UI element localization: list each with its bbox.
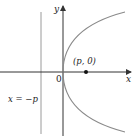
y-axis-label: y bbox=[53, 4, 60, 14]
parabola-diagram: y x 0 (p, 0) x = −p bbox=[0, 0, 134, 140]
origin-label: 0 bbox=[56, 74, 62, 84]
x-axis-label: x bbox=[126, 74, 131, 84]
directrix-label: x = −p bbox=[8, 94, 38, 104]
focus-point bbox=[84, 70, 88, 74]
focus-label: (p, 0) bbox=[73, 56, 96, 66]
